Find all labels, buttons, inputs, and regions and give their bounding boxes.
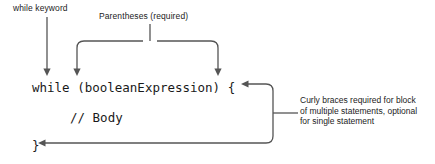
annotation-while-keyword: while keyword xyxy=(13,3,68,14)
bracket-right-parentheses xyxy=(157,41,218,69)
arrowhead-close-paren xyxy=(214,69,221,77)
diagram-canvas: while keyword Parentheses (required) whi… xyxy=(0,0,435,164)
note-curly-braces-line-2: of multiple statements, optional xyxy=(300,106,417,117)
code-line-body-comment: // Body xyxy=(70,110,123,125)
code-line-closing-brace: } xyxy=(32,138,40,153)
bracket-left-parentheses xyxy=(77,41,143,69)
note-curly-braces-line-3: for single statement xyxy=(300,116,374,127)
arrowhead-open-paren xyxy=(73,69,80,77)
arrowhead-while-keyword xyxy=(43,69,50,77)
note-curly-braces-line-1: Curly braces required for block xyxy=(300,95,416,106)
arrowhead-open-brace xyxy=(241,80,249,87)
annotation-parentheses: Parentheses (required) xyxy=(99,11,188,22)
code-line-while-header: while (booleanExpression) { xyxy=(32,80,235,95)
